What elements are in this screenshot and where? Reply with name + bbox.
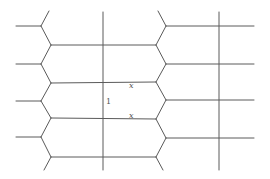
right-zigzag-edge xyxy=(156,26,166,45)
label-one: 1 xyxy=(106,97,111,106)
right-zigzag-edge xyxy=(156,100,166,119)
right-zigzag-edge xyxy=(156,64,166,82)
label-x-lower: x xyxy=(129,111,134,120)
lattice-edges xyxy=(16,11,254,170)
lattice-labels: x 1 x xyxy=(106,81,134,120)
left-bottom-tail xyxy=(44,157,51,170)
left-zigzag-edge xyxy=(41,45,51,64)
lattice-diagram: x 1 x xyxy=(0,0,270,179)
right-zigzag-edge xyxy=(156,82,166,100)
left-zigzag-edge xyxy=(41,26,51,45)
left-zigzag-edge xyxy=(41,118,51,137)
right-top-tail xyxy=(158,11,166,26)
right-bottom-tail xyxy=(156,157,163,170)
left-zigzag-edge xyxy=(41,64,51,83)
left-zigzag-edge xyxy=(41,83,51,101)
left-zigzag-edge xyxy=(41,137,51,157)
right-zigzag-edge xyxy=(156,138,166,157)
left-top-tail xyxy=(41,11,49,26)
label-x-upper: x xyxy=(129,81,134,90)
right-zigzag-edge xyxy=(156,119,166,138)
left-zigzag-edge xyxy=(41,101,51,118)
right-zigzag-edge xyxy=(156,45,166,64)
lattice-svg: x 1 x xyxy=(0,0,270,179)
